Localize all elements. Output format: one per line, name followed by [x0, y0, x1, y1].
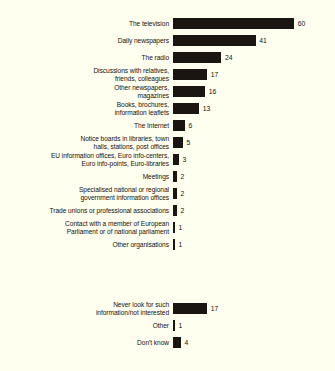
- bar-track: 24: [173, 49, 335, 66]
- bar: [173, 35, 256, 46]
- category-label: EU information offices, Euro info-center…: [0, 152, 173, 167]
- bar-row: Books, brochures, information leaflets13: [0, 100, 335, 117]
- bar-row: Other newspapers, magazines16: [0, 83, 335, 100]
- category-label: Discussions with relatives, friends, col…: [0, 67, 173, 82]
- bar-track: 1: [173, 317, 335, 334]
- bar-row: The Internet6: [0, 117, 335, 134]
- bar: [173, 120, 185, 131]
- category-label: Other: [0, 322, 173, 330]
- bar-value-label: 5: [187, 139, 191, 146]
- bar: [173, 205, 177, 216]
- bar-row: Specialised national or regional governm…: [0, 185, 335, 202]
- bar-track: 3: [173, 151, 335, 168]
- bar-value-label: 2: [181, 190, 185, 197]
- category-label: Don't know: [0, 339, 173, 347]
- bar: [173, 320, 175, 331]
- bar-row: EU information offices, Euro info-center…: [0, 151, 335, 168]
- bar: [173, 69, 207, 80]
- category-label: Other organisations: [0, 241, 173, 249]
- category-label: Other newspapers, magazines: [0, 84, 173, 99]
- bar-value-label: 17: [211, 71, 219, 78]
- bar-chart: The television60Daily newspapers41The ra…: [0, 0, 335, 371]
- category-label: The radio: [0, 54, 173, 62]
- bar-track: 6: [173, 117, 335, 134]
- bar-value-label: 1: [179, 322, 183, 329]
- bar: [173, 337, 181, 348]
- category-label: Daily newspapers: [0, 37, 173, 45]
- bar-track: 16: [173, 83, 335, 100]
- bar-value-label: 2: [181, 207, 185, 214]
- bar-row: Trade unions or professional association…: [0, 202, 335, 219]
- bar-row: Don't know4: [0, 334, 335, 351]
- bar-value-label: 4: [185, 339, 189, 346]
- bar: [173, 222, 175, 233]
- bar-track: 2: [173, 168, 335, 185]
- bar: [173, 239, 175, 250]
- category-label: The television: [0, 20, 173, 28]
- bar: [173, 52, 221, 63]
- bar-value-label: 2: [181, 173, 185, 180]
- bar-value-label: 24: [225, 54, 233, 61]
- category-label: Never look for such information/not inte…: [0, 301, 173, 316]
- bar: [173, 303, 207, 314]
- bar-row: Daily newspapers41: [0, 32, 335, 49]
- category-label: Meetings: [0, 173, 173, 181]
- category-label: Contact with a member of European Parlia…: [0, 220, 173, 235]
- category-label: Trade unions or professional association…: [0, 207, 173, 215]
- bar-row: Discussions with relatives, friends, col…: [0, 66, 335, 83]
- bar-row: Never look for such information/not inte…: [0, 300, 335, 317]
- bar-row: The radio24: [0, 49, 335, 66]
- bar-track: 5: [173, 134, 335, 151]
- bar-value-label: 16: [209, 88, 217, 95]
- bar-track: 2: [173, 185, 335, 202]
- bar: [173, 18, 294, 29]
- bar-value-label: 3: [183, 156, 187, 163]
- bar-value-label: 41: [259, 37, 267, 44]
- bar-row: The television60: [0, 15, 335, 32]
- bar-value-label: 17: [211, 305, 219, 312]
- bar-row: Other1: [0, 317, 335, 334]
- bar-row: Contact with a member of European Parlia…: [0, 219, 335, 236]
- bar-track: 41: [173, 32, 335, 49]
- bar-track: 13: [173, 100, 335, 117]
- bar: [173, 137, 183, 148]
- bar-track: 17: [173, 66, 335, 83]
- bar-value-label: 6: [189, 122, 193, 129]
- bar: [173, 171, 177, 182]
- bar-value-label: 60: [298, 20, 306, 27]
- bar-track: 4: [173, 334, 335, 351]
- bar-track: 60: [173, 15, 335, 32]
- bar: [173, 103, 199, 114]
- bar: [173, 154, 179, 165]
- bar-value-label: 13: [203, 105, 211, 112]
- bar-track: 2: [173, 202, 335, 219]
- bar-row: Other organisations1: [0, 236, 335, 253]
- bar: [173, 86, 205, 97]
- bar-value-label: 1: [179, 224, 183, 231]
- bar-row: Notice boards in libraries, town halls, …: [0, 134, 335, 151]
- category-label: The Internet: [0, 122, 173, 130]
- bar-track: 17: [173, 300, 335, 317]
- bar-track: 1: [173, 219, 335, 236]
- bar-row: Meetings2: [0, 168, 335, 185]
- category-label: Notice boards in libraries, town halls, …: [0, 135, 173, 150]
- bar-value-label: 1: [179, 241, 183, 248]
- bar-track: 1: [173, 236, 335, 253]
- category-label: Books, brochures, information leaflets: [0, 101, 173, 116]
- bar: [173, 188, 177, 199]
- category-label: Specialised national or regional governm…: [0, 186, 173, 201]
